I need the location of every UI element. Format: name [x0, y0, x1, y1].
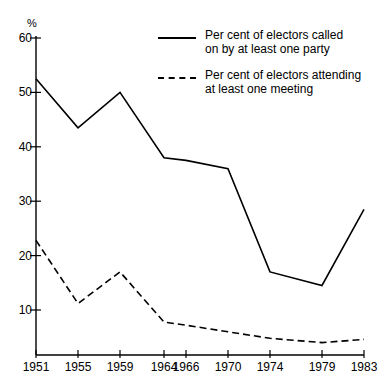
plot-area	[0, 0, 380, 386]
series-line-attending-meeting	[36, 240, 364, 342]
axis-group	[36, 36, 364, 355]
line-chart: % 60 50 40 30 20 10 1951 1955 1959 1964 …	[0, 0, 380, 386]
series-line-called-on	[36, 79, 364, 286]
x-axis-ticks	[36, 350, 364, 358]
